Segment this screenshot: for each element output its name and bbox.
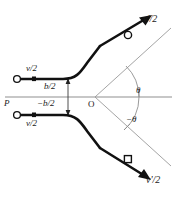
outgoing-upper-trajectory — [100, 18, 147, 46]
incoming-upper-start-marker — [14, 76, 21, 83]
scattering-diagram-figure: P O v/2 v/2 b/2 −b/2 v'/2 v'/2 θ −θ — [0, 0, 175, 197]
incoming-lower-tick-marker — [32, 113, 36, 118]
outgoing-upper-particle-marker — [124, 31, 131, 38]
label-incoming-speed-upper: v/2 — [26, 64, 37, 73]
outgoing-lower-trajectory — [100, 148, 145, 176]
label-angle-theta: θ — [136, 86, 140, 95]
label-outgoing-speed-upper: v'/2 — [143, 14, 157, 24]
guide-ray-lower — [95, 97, 171, 166]
label-angle-negative-theta: −θ — [126, 115, 137, 124]
incoming-upper-tick-marker — [32, 77, 36, 82]
incoming-lower-start-marker — [14, 112, 21, 119]
outgoing-lower-particle-marker — [124, 156, 131, 163]
angle-arc-lower-pointer — [124, 124, 130, 130]
label-incoming-speed-lower: v/2 — [26, 119, 37, 128]
label-outgoing-speed-lower: v'/2 — [146, 175, 160, 185]
label-impact-parameter-lower: −b/2 — [37, 99, 55, 108]
label-point-P: P — [4, 99, 10, 108]
label-impact-parameter-upper: b/2 — [44, 82, 56, 91]
label-origin-O: O — [88, 100, 95, 109]
guide-ray-upper — [95, 28, 171, 97]
